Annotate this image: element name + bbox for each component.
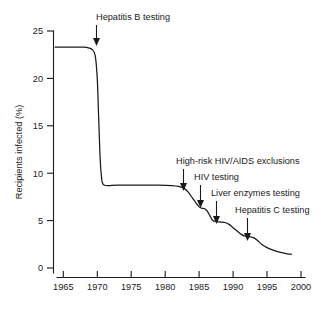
y-tick-label-0: 0	[38, 263, 43, 273]
x-tick-label-1970: 1970	[87, 282, 107, 292]
annotation-label-hepatitis-c-testing: Hepatitis C testing	[235, 205, 310, 215]
y-axis-title: Recipients infected (%)	[14, 105, 24, 199]
data-series-line	[55, 47, 291, 254]
x-tick-label-1965: 1965	[53, 282, 73, 292]
y-tick-label-10: 10	[33, 169, 43, 179]
x-axis-ticks	[63, 271, 301, 278]
x-tick-label-1985: 1985	[189, 282, 209, 292]
annotation-label-high-risk-exclusions: High-risk HIV/AIDS exclusions	[176, 156, 300, 166]
x-tick-label-1995: 1995	[257, 282, 277, 292]
y-tick-label-25: 25	[33, 26, 43, 36]
x-tick-label-2000: 2000	[291, 282, 311, 292]
y-tick-label-15: 15	[33, 121, 43, 131]
annotation-label-liver-enzymes-testing: Liver enzymes testing	[211, 188, 300, 198]
annotation-arrow-head-liver-enzymes-testing	[213, 216, 220, 224]
annotation-arrow-head-hepatitis-b	[93, 38, 100, 46]
chart-container: 25 20 15 10 5 0 1965 1970 1975 1980 1985…	[0, 0, 332, 310]
annotation-label-hiv-testing: HIV testing	[194, 172, 239, 182]
x-tick-label-1990: 1990	[223, 282, 243, 292]
annotation-hepatitis-b: Hepatitis B testing	[93, 12, 170, 46]
y-axis-ticks	[47, 31, 54, 268]
y-tick-label-5: 5	[38, 216, 43, 226]
annotation-label-hepatitis-b: Hepatitis B testing	[96, 12, 170, 22]
x-tick-label-1975: 1975	[121, 282, 141, 292]
y-tick-label-20: 20	[33, 74, 43, 84]
x-tick-label-1980: 1980	[155, 282, 175, 292]
blood-transfusion-infection-line-chart: 25 20 15 10 5 0 1965 1970 1975 1980 1985…	[0, 0, 332, 310]
annotation-arrow-head-hiv-testing	[197, 200, 204, 208]
annotation-hepatitis-c-testing: Hepatitis C testing	[235, 205, 310, 241]
